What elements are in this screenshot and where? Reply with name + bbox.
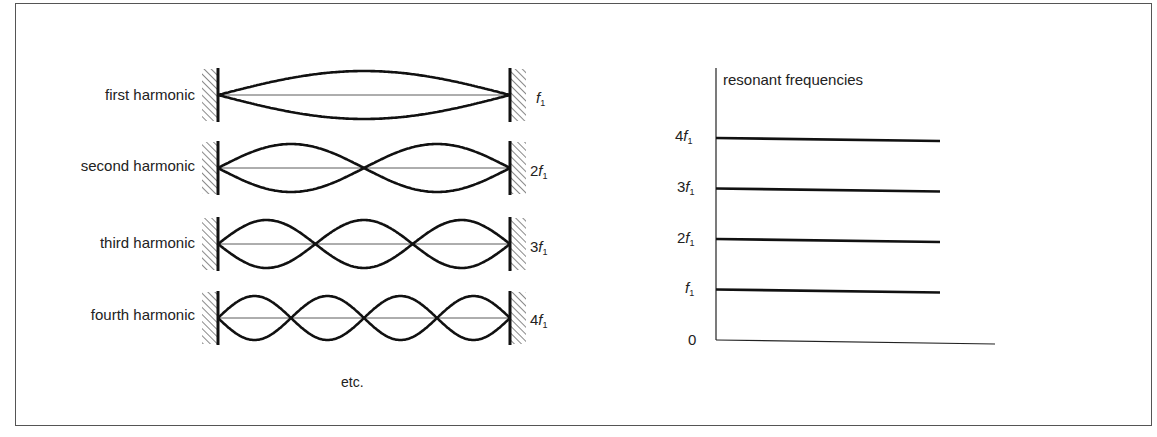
chart-title: resonant frequencies	[723, 71, 863, 88]
tick-label-3f1: 3f1	[677, 178, 695, 197]
standing-waves	[202, 68, 526, 345]
wall-hatch-left	[202, 142, 217, 194]
freq-label-3: 3f1	[530, 238, 548, 257]
diagram-canvas	[0, 0, 1157, 437]
wall-hatch-right	[511, 142, 526, 194]
wall-hatch-right	[511, 69, 526, 121]
harmonic-label-3: third harmonic	[100, 234, 195, 251]
x-axis	[716, 340, 995, 344]
harmonic-label-1: first harmonic	[105, 86, 195, 103]
freq-label-4: 4f1	[530, 311, 548, 330]
frequency-level-line	[716, 189, 940, 192]
tick-label-4f1: 4f1	[675, 127, 693, 146]
etc-label: etc.	[341, 374, 364, 390]
frequency-level-line	[716, 239, 940, 242]
freq-label-1: f1	[536, 89, 545, 108]
wall-hatch-right	[511, 292, 526, 344]
wall-hatch-left	[202, 218, 217, 270]
harmonic-label-4: fourth harmonic	[91, 306, 195, 323]
harmonic-label-2: second harmonic	[81, 157, 195, 174]
frequency-level-line	[716, 290, 940, 293]
freq-label-2: 2f1	[530, 162, 548, 181]
wall-hatch-left	[202, 292, 217, 344]
tick-label-zero: 0	[688, 331, 696, 348]
wall-hatch-right	[511, 218, 526, 270]
wave-envelope	[218, 71, 510, 95]
frequency-level-line	[716, 138, 940, 141]
resonant-frequency-levels	[716, 68, 995, 344]
wave-envelope	[218, 95, 510, 119]
tick-label-2f1: 2f1	[677, 229, 695, 248]
tick-label-f1: f1	[685, 279, 694, 298]
wall-hatch-left	[202, 69, 217, 121]
